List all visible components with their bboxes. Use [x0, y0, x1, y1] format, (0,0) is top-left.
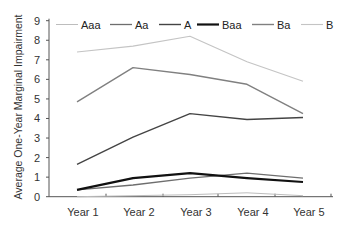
legend-label: Baa: [222, 19, 242, 31]
legend-label: Aaa: [81, 19, 101, 31]
y-tick-label: 6: [34, 73, 40, 85]
y-tick-label: 7: [34, 54, 40, 66]
y-axis-label: Average One-Year Marginal Impairment: [12, 14, 24, 199]
x-tick-label: Year 1: [67, 206, 98, 218]
y-tick-label: 2: [34, 152, 40, 164]
series-line-ba: [77, 68, 303, 114]
x-axis-ticks: Year 1Year 2Year 3Year 4Year 5: [67, 194, 331, 218]
series-line-a: [77, 114, 303, 165]
y-tick-label: 4: [34, 112, 40, 124]
y-tick-label: 9: [34, 15, 40, 27]
y-axis-ticks: 0123456789: [34, 15, 49, 203]
y-tick-label: 5: [34, 93, 40, 105]
y-tick-label: 8: [34, 34, 40, 46]
x-tick-label: Year 2: [123, 206, 154, 218]
y-tick-label: 3: [34, 132, 40, 144]
y-tick-label: 0: [34, 191, 40, 203]
x-tick-label: Year 3: [180, 206, 211, 218]
series-line-aaa: [77, 193, 303, 197]
legend-label: Aa: [135, 19, 149, 31]
x-tick-label: Year 5: [293, 206, 324, 218]
legend-label: A: [184, 19, 192, 31]
series-lines: [77, 36, 303, 196]
line-chart: 0123456789 Year 1Year 2Year 3Year 4Year …: [0, 0, 347, 231]
legend-label: Ba: [277, 19, 291, 31]
x-tick-label: Year 4: [237, 206, 268, 218]
series-line-aa: [77, 173, 303, 190]
y-tick-label: 1: [34, 171, 40, 183]
legend: AaaAaABaaBaB: [56, 19, 333, 31]
legend-label: B: [326, 19, 333, 31]
